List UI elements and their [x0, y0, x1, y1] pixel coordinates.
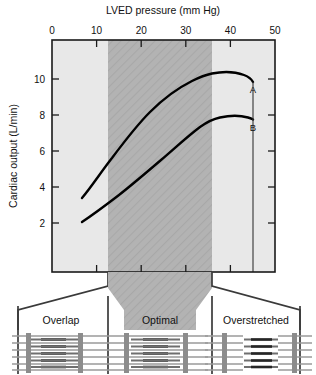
panel-label-optimal: Optimal [142, 314, 178, 326]
point-label-b: B [250, 122, 256, 133]
y-tick-label-4: 4 [39, 182, 45, 193]
panel-label-overlap: Overlap [43, 314, 80, 326]
y-axis-title: Cardiac output (L/min) [7, 104, 19, 208]
optimal-band [108, 40, 212, 272]
x-tick-label-10: 10 [91, 25, 103, 36]
figure-root: LVED pressure (mm Hg) 0 10 20 30 40 50 C… [0, 0, 316, 375]
z-line [292, 333, 297, 373]
cardiac-output-figure: LVED pressure (mm Hg) 0 10 20 30 40 50 C… [0, 0, 316, 375]
z-line [124, 333, 129, 373]
point-label-a: A [250, 84, 257, 95]
panel-label-overstretched: Overstretched [223, 314, 289, 326]
z-line [222, 333, 227, 373]
y-tick-label-2: 2 [39, 218, 45, 229]
x-axis-title: LVED pressure (mm Hg) [106, 4, 220, 16]
z-line [26, 333, 31, 373]
x-tick-label-40: 40 [225, 25, 237, 36]
z-line [78, 333, 83, 373]
y-tick-label-8: 8 [39, 110, 45, 121]
x-tick-label-0: 0 [49, 25, 55, 36]
z-line [183, 333, 188, 373]
y-tick-label-10: 10 [34, 74, 46, 85]
sarcomere-overlap [12, 333, 104, 373]
x-tick-label-20: 20 [136, 25, 148, 36]
x-tick-label-30: 30 [180, 25, 192, 36]
x-tick-label-50: 50 [269, 25, 281, 36]
sarcomere-overstretched [205, 333, 312, 373]
y-tick-label-6: 6 [39, 146, 45, 157]
sarcomere-optimal [104, 333, 208, 373]
